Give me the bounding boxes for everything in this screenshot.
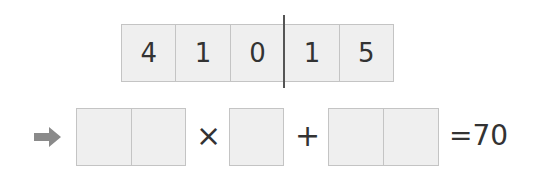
digit-card: 0 [231, 25, 285, 81]
two-digit-answer-box-1[interactable] [76, 108, 186, 166]
answer-slot[interactable] [230, 109, 283, 165]
answer-slot[interactable] [132, 109, 186, 165]
digit-card-strip: 4 1 0 1 5 [121, 24, 394, 82]
answer-slot[interactable] [77, 109, 132, 165]
answer-slot[interactable] [384, 109, 438, 165]
answer-slot[interactable] [329, 109, 384, 165]
multiply-sign: × [196, 118, 221, 154]
right-arrow-icon [34, 127, 61, 147]
digit-card: 5 [340, 25, 393, 81]
digit-card: 1 [285, 25, 339, 81]
equation-result: =70 [449, 117, 508, 155]
digit-card: 4 [122, 25, 176, 81]
split-divider-line [283, 15, 285, 88]
one-digit-answer-box[interactable] [229, 108, 284, 166]
plus-sign: + [295, 118, 320, 154]
digit-card: 1 [176, 25, 230, 81]
two-digit-answer-box-2[interactable] [328, 108, 439, 166]
